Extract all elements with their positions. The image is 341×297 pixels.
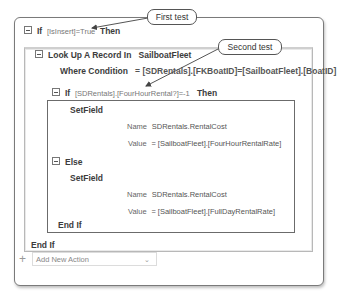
else-keyword: Else	[65, 157, 83, 167]
end-if-label: End If	[31, 240, 55, 250]
add-new-action-dropdown[interactable]: Add New Action ⌄	[32, 252, 157, 266]
setfield-keyword: SetField	[70, 105, 103, 115]
then-keyword: Then	[100, 26, 120, 36]
end-if-label: End If	[58, 220, 82, 230]
setfield-2-value-row: Value = [SailboatFleet].[FullDayRentalRa…	[128, 206, 275, 217]
where-condition-label: Where Condition	[60, 66, 128, 76]
where-condition-row: Where Condition = [SDRentals].[FKBoatID]…	[60, 66, 336, 76]
callout-second-test: Second test	[218, 39, 282, 55]
if-condition-input[interactable]: [IsInsert]=True	[47, 27, 95, 36]
name-label: Name	[127, 122, 147, 131]
if-block-fourhour: If [SDRentals].[FourHourRental?]=-1 Then	[52, 88, 217, 99]
if-keyword: If	[37, 26, 42, 36]
lookup-keyword: Look Up A Record In	[48, 50, 131, 60]
setfield-action-2[interactable]: SetField	[70, 173, 103, 183]
then-keyword: Then	[197, 88, 217, 98]
collapse-toggle-icon[interactable]	[52, 157, 60, 165]
collapse-toggle-icon[interactable]	[52, 88, 60, 96]
callout-first-test: First test	[147, 9, 197, 25]
setfield-action-1[interactable]: SetField	[70, 105, 103, 115]
value-input[interactable]: = [SailboatFleet].[FullDayRentalRate]	[151, 207, 275, 216]
collapse-toggle-icon[interactable]	[35, 50, 43, 58]
value-input[interactable]: = [SailboatFleet].[FourHourRentalRate]	[151, 139, 281, 148]
if-keyword: If	[65, 88, 70, 98]
value-label: Value	[128, 139, 147, 148]
add-new-action-label: Add New Action	[36, 255, 89, 264]
setfield-keyword: SetField	[70, 173, 103, 183]
chevron-down-icon: ⌄	[144, 253, 150, 267]
name-label: Name	[127, 190, 147, 199]
if-block-isinsert: If [IsInsert]=True Then	[24, 26, 120, 37]
setfield-1-value-row: Value = [SailboatFleet].[FourHourRentalR…	[128, 138, 281, 149]
collapse-toggle-icon[interactable]	[24, 26, 32, 34]
lookup-record-action[interactable]: Look Up A Record In SailboatFleet	[35, 50, 191, 60]
value-label: Value	[128, 207, 147, 216]
name-input[interactable]: SDRentals.RentalCost	[152, 190, 227, 199]
name-input[interactable]: SDRentals.RentalCost	[152, 122, 227, 131]
setfield-2-name-row: Name SDRentals.RentalCost	[127, 189, 227, 200]
setfield-1-name-row: Name SDRentals.RentalCost	[127, 121, 227, 132]
add-icon[interactable]: +	[19, 253, 26, 265]
else-block: Else	[52, 157, 83, 167]
end-if-outer: End If	[31, 240, 55, 250]
if-condition-input[interactable]: [SDRentals].[FourHourRental?]=-1	[75, 89, 190, 98]
end-if-inner: End If	[58, 220, 82, 230]
lookup-table-value[interactable]: SailboatFleet	[139, 50, 192, 60]
where-condition-input[interactable]: = [SDRentals].[FKBoatID]=[SailboatFleet]…	[135, 66, 336, 76]
